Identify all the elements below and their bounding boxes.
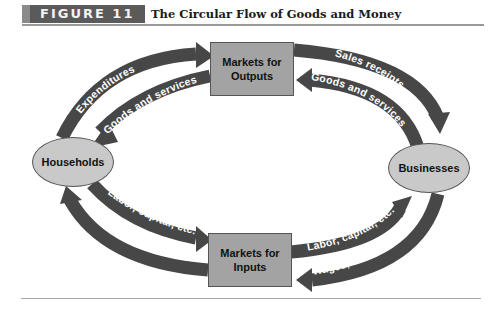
arrowhead-incomes <box>60 186 82 204</box>
markets-for-inputs-box: Markets forInputs <box>208 233 292 287</box>
outputs-line1: Markets for <box>222 56 281 68</box>
inputs-line2: Inputs <box>233 261 266 273</box>
arrowhead-wages <box>296 268 312 292</box>
households-node: Households <box>32 137 114 187</box>
arrowhead-goods-outputs <box>296 68 312 92</box>
markets-for-outputs-box: Markets forOutputs <box>210 42 294 96</box>
businesses-node: Businesses <box>388 143 470 193</box>
inputs-line1: Markets for <box>220 247 279 259</box>
businesses-label: Businesses <box>398 162 459 174</box>
households-label: Households <box>42 156 105 168</box>
outputs-line2: Outputs <box>231 70 273 82</box>
footer-rule <box>21 298 481 299</box>
arrowhead-sales <box>428 112 450 134</box>
